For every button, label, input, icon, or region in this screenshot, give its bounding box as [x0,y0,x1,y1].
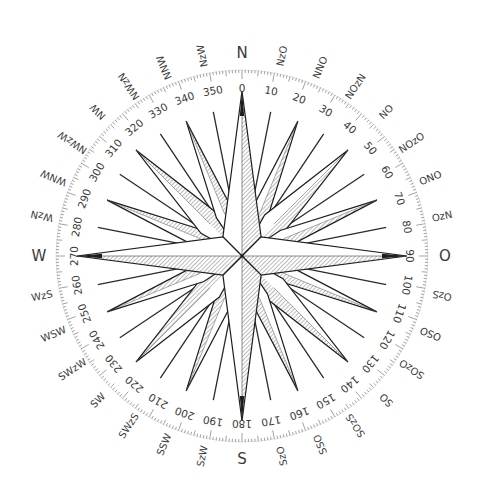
scale-tick [357,398,359,400]
scale-tick [78,169,81,170]
scale-tick [395,356,398,358]
scale-tick [378,378,380,380]
scale-tick [93,144,95,146]
scale-tick [402,166,405,167]
scale-tick [149,409,154,417]
scale-tick [59,224,68,226]
compass-rose-figure: 0102030405060708090100110120130140150160… [0,0,481,491]
scale-tick [384,139,386,141]
scale-tick [83,350,86,352]
scale-tick [286,76,287,79]
degree-label: 220 [122,374,145,396]
scale-tick [70,325,73,326]
scale-tick [412,325,415,326]
scale-tick [416,199,419,200]
scale-tick [397,157,400,159]
scale-tick [194,430,195,435]
scale-tick [402,345,405,346]
scale-tick [88,152,90,154]
scale-tick [66,316,69,317]
scale-tick [356,114,362,121]
scale-tick [78,342,81,343]
scale-tick [62,208,67,209]
scale-tick [146,97,148,100]
scale-tick [160,89,161,92]
scale-tick [90,149,95,152]
scale-tick [188,431,189,434]
scale-tick [133,404,135,406]
scale-tick [370,384,374,388]
scale-tick [90,360,95,363]
scale-tick [93,366,95,368]
scale-tick [406,177,411,179]
cardinal-label-S: S [237,450,247,468]
scale-tick [325,419,326,422]
degree-label: 130 [360,352,382,375]
scale-tick [191,432,192,435]
scale-tick [322,420,323,423]
point-label: SzO [274,445,289,466]
scale-tick [64,310,67,311]
scale-tick [155,418,156,421]
degree-label: 290 [75,187,93,210]
scale-tick [336,97,338,100]
scale-tick [76,339,79,340]
scale-tick [88,358,90,360]
scale-tick [362,394,364,396]
point-label: NzO [274,45,289,67]
degree-label: 100 [400,274,415,296]
scale-tick [197,76,198,79]
degree-label: 350 [202,83,224,98]
scale-tick [122,392,128,399]
scale-tick [277,436,278,439]
scale-tick [102,376,104,378]
degree-label: 10 [264,83,279,97]
scale-tick [125,398,127,400]
degree-label: 230 [102,352,124,375]
scale-tick [65,313,68,314]
point-label: OzS [431,289,452,304]
scale-tick [405,339,408,340]
scale-tick [374,127,376,129]
scale-tick [342,409,344,412]
scale-tick [75,174,78,175]
scale-tick [406,332,411,334]
scale-tick [369,122,371,124]
point-label: ONO [418,168,444,187]
scale-tick [59,221,62,222]
scale-tick [412,186,415,187]
scale-tick [316,86,317,89]
point-label: WzN [30,209,54,224]
scale-tick [166,423,167,426]
scale-tick [73,177,78,179]
scale-tick [172,426,173,429]
scale-tick [395,155,398,157]
degree-label: 320 [122,116,145,138]
scale-tick [66,195,69,196]
scale-tick [115,390,117,392]
scale-tick [158,419,159,422]
scale-tick [60,217,63,218]
degree-label: 250 [75,302,93,325]
scale-tick [191,77,192,80]
point-label: SWzS [116,411,141,440]
scale-tick [421,217,424,218]
scale-tick [155,92,156,95]
scale-tick [331,409,336,417]
scale-tick [67,192,75,195]
degree-label: 340 [173,89,196,107]
scale-tick [81,345,89,350]
scale-tick [408,192,416,195]
scale-tick [410,328,413,329]
scale-tick [175,427,176,430]
degree-label: 60 [379,163,396,181]
scale-tick [380,376,382,378]
scale-tick [405,172,408,173]
point-label: NWzN [116,71,142,102]
scale-tick [210,430,212,439]
scale-tick [64,202,67,203]
scale-tick [362,116,364,118]
scale-tick [185,79,186,82]
point-label: WzS [30,288,53,303]
scale-tick [420,300,423,301]
